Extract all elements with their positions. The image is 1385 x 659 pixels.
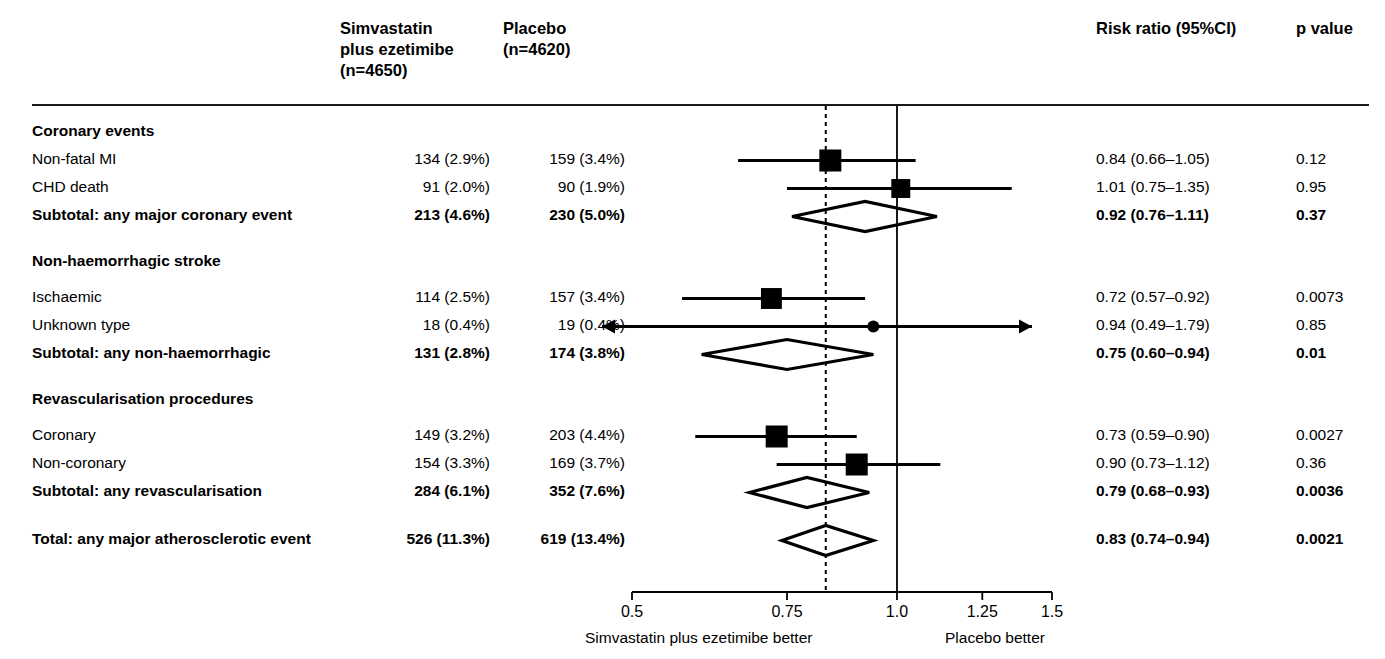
forest-marker-square xyxy=(695,426,856,448)
row-label: Subtotal: any revascularisation xyxy=(32,482,262,500)
row-p-value: 0.0036 xyxy=(1296,482,1343,500)
header-group2-line1: Placebo xyxy=(503,18,643,39)
axis-left-label: Simvastatin plus ezetimibe better xyxy=(585,629,812,647)
row-group2-value: 159 (3.4%) xyxy=(465,150,625,168)
header-group1-line3: (n=4650) xyxy=(340,60,490,81)
header-group1-line1: Simvastatin xyxy=(340,18,490,39)
row-label: Unknown type xyxy=(32,316,130,334)
row-risk-ratio: 1.01 (0.75–1.35) xyxy=(1096,178,1210,196)
forest-marker-square xyxy=(777,454,941,476)
forest-plot-figure: Simvastatin plus ezetimibe (n=4650) Plac… xyxy=(0,0,1385,659)
row-risk-ratio: 0.84 (0.66–1.05) xyxy=(1096,150,1210,168)
row-risk-ratio: 0.79 (0.68–0.93) xyxy=(1096,482,1210,500)
row-p-value: 0.0027 xyxy=(1296,426,1343,444)
row-risk-ratio: 0.73 (0.59–0.90) xyxy=(1096,426,1210,444)
forest-marker-diamond xyxy=(750,478,870,508)
row-label: Non-fatal MI xyxy=(32,150,116,168)
row-label: Subtotal: any non-haemorrhagic xyxy=(32,344,271,362)
x-axis-tick-label: 1.5 xyxy=(1012,603,1092,621)
row-p-value: 0.12 xyxy=(1296,150,1326,168)
x-axis-tick-label: 1.0 xyxy=(857,603,937,621)
row-group2-value: 203 (4.4%) xyxy=(465,426,625,444)
row-p-value: 0.0073 xyxy=(1296,288,1343,306)
row-group2-value: 352 (7.6%) xyxy=(465,482,625,500)
header-group2: Placebo (n=4620) xyxy=(503,18,643,60)
forest-marker-square xyxy=(682,288,865,309)
x-axis-tick-label: 0.5 xyxy=(592,603,672,621)
row-risk-ratio: 0.90 (0.73–1.12) xyxy=(1096,454,1210,472)
row-label: Non-coronary xyxy=(32,454,126,472)
row-p-value: 0.0021 xyxy=(1296,530,1343,548)
row-group2-value: 169 (3.7%) xyxy=(465,454,625,472)
row-group2-value: 230 (5.0%) xyxy=(465,206,625,224)
forest-marker-diamond xyxy=(702,340,874,370)
forest-marker-square xyxy=(602,320,1032,334)
axis-right-label: Placebo better xyxy=(945,629,1045,647)
x-axis-tick-label: 0.75 xyxy=(747,603,827,621)
header-group2-line2: (n=4620) xyxy=(503,39,643,60)
row-p-value: 0.95 xyxy=(1296,178,1326,196)
row-group2-value: 90 (1.9%) xyxy=(465,178,625,196)
row-label: CHD death xyxy=(32,178,109,196)
row-label: Ischaemic xyxy=(32,288,102,306)
row-label: Revascularisation procedures xyxy=(32,390,253,408)
row-p-value: 0.37 xyxy=(1296,206,1326,224)
header-p-value: p value xyxy=(1296,18,1353,39)
x-axis-tick-label: 1.25 xyxy=(942,603,1022,621)
row-risk-ratio: 0.75 (0.60–0.94) xyxy=(1096,344,1210,362)
forest-marker-diamond xyxy=(792,202,937,232)
row-label: Non-haemorrhagic stroke xyxy=(32,252,221,270)
row-label: Coronary xyxy=(32,426,96,444)
row-group2-value: 19 (0.4%) xyxy=(465,316,625,334)
header-group1: Simvastatin plus ezetimibe (n=4650) xyxy=(340,18,490,81)
row-p-value: 0.85 xyxy=(1296,316,1326,334)
row-label: Subtotal: any major coronary event xyxy=(32,206,292,224)
row-label: Total: any major atherosclerotic event xyxy=(32,530,311,548)
row-risk-ratio: 0.72 (0.57–0.92) xyxy=(1096,288,1210,306)
forest-marker-diamond xyxy=(782,526,873,556)
row-label: Coronary events xyxy=(32,122,154,140)
row-risk-ratio: 0.94 (0.49–1.79) xyxy=(1096,316,1210,334)
header-rule-top xyxy=(32,104,1369,106)
row-p-value: 0.01 xyxy=(1296,344,1326,362)
row-group2-value: 157 (3.4%) xyxy=(465,288,625,306)
forest-marker-square xyxy=(787,179,1012,198)
row-risk-ratio: 0.92 (0.76–1.11) xyxy=(1096,206,1209,224)
row-group2-value: 174 (3.8%) xyxy=(465,344,625,362)
header-group1-line2: plus ezetimibe xyxy=(340,39,490,60)
row-risk-ratio: 0.83 (0.74–0.94) xyxy=(1096,530,1210,548)
header-risk-ratio: Risk ratio (95%CI) xyxy=(1096,18,1236,39)
forest-marker-square xyxy=(738,150,916,172)
row-group2-value: 619 (13.4%) xyxy=(465,530,625,548)
row-p-value: 0.36 xyxy=(1296,454,1326,472)
